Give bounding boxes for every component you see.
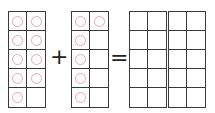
counter-circle-icon bbox=[12, 54, 23, 65]
frame-cell bbox=[148, 12, 166, 31]
frame-cell bbox=[90, 50, 108, 69]
frame-cell bbox=[130, 69, 148, 88]
counter-circle-icon bbox=[12, 92, 23, 103]
frame-cell bbox=[187, 88, 205, 107]
frame-cell bbox=[148, 69, 166, 88]
frame-cell bbox=[72, 88, 90, 107]
counter-circle-icon bbox=[75, 16, 86, 27]
frame-cell bbox=[9, 31, 27, 50]
frame-cell bbox=[90, 12, 108, 31]
counter-circle-icon bbox=[12, 16, 23, 27]
frame-cell bbox=[9, 69, 27, 88]
frame-cell bbox=[169, 31, 187, 50]
frame-cell bbox=[27, 12, 45, 31]
ten-frame-addend-2 bbox=[71, 11, 109, 108]
frame-cell bbox=[72, 31, 90, 50]
frame-cell bbox=[169, 88, 187, 107]
frame-cell bbox=[72, 50, 90, 69]
frame-cell bbox=[72, 12, 90, 31]
frame-cell bbox=[187, 12, 205, 31]
counter-circle-icon bbox=[12, 35, 23, 46]
counter-circle-icon bbox=[94, 16, 105, 27]
frame-cell bbox=[90, 31, 108, 50]
frame-cell bbox=[90, 69, 108, 88]
frame-cell bbox=[130, 12, 148, 31]
ten-frame-sum-2 bbox=[168, 11, 206, 108]
frame-cell bbox=[130, 31, 148, 50]
ten-frame-addend-1 bbox=[8, 11, 46, 108]
frame-cell bbox=[169, 50, 187, 69]
frame-cell bbox=[187, 50, 205, 69]
counter-circle-icon bbox=[75, 73, 86, 84]
frame-cell bbox=[27, 69, 45, 88]
frame-cell bbox=[148, 31, 166, 50]
frame-cell bbox=[72, 69, 90, 88]
frame-cell bbox=[130, 88, 148, 107]
frame-cell bbox=[9, 50, 27, 69]
equals-sign: = bbox=[110, 47, 128, 69]
counter-circle-icon bbox=[31, 35, 42, 46]
counter-circle-icon bbox=[31, 73, 42, 84]
frame-cell bbox=[169, 12, 187, 31]
frame-cell bbox=[148, 88, 166, 107]
ten-frame-sum-1 bbox=[129, 11, 167, 108]
frame-cell bbox=[27, 88, 45, 107]
counter-circle-icon bbox=[31, 16, 42, 27]
counter-circle-icon bbox=[31, 54, 42, 65]
plus-sign: + bbox=[50, 46, 68, 68]
frame-cell bbox=[90, 88, 108, 107]
frame-cell bbox=[148, 50, 166, 69]
frame-cell bbox=[187, 31, 205, 50]
counter-circle-icon bbox=[75, 35, 86, 46]
counter-circle-icon bbox=[12, 73, 23, 84]
counter-circle-icon bbox=[75, 54, 86, 65]
frame-cell bbox=[169, 69, 187, 88]
frame-cell bbox=[9, 12, 27, 31]
frame-cell bbox=[27, 50, 45, 69]
frame-cell bbox=[130, 50, 148, 69]
frame-cell bbox=[187, 69, 205, 88]
frame-cell bbox=[27, 31, 45, 50]
frame-cell bbox=[9, 88, 27, 107]
counter-circle-icon bbox=[75, 92, 86, 103]
